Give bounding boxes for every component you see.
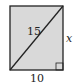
rectangle-diagram: 15 x 10	[0, 0, 74, 84]
side-x-label: x	[66, 32, 73, 45]
diagonal-label: 15	[27, 25, 41, 38]
bottom-side-label: 10	[30, 72, 44, 84]
